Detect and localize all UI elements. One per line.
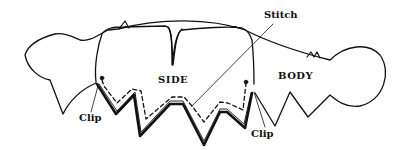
side-bottom-edge	[97, 84, 252, 145]
clip-label-right: Clip	[251, 129, 274, 139]
clip-label-left: Clip	[79, 113, 102, 123]
clip-left-leader-line	[91, 86, 98, 112]
clip-dot-left	[100, 76, 104, 80]
stitch-label: Stitch	[264, 10, 298, 20]
diagram-canvas: SIDE BODY Stitch Clip Clip	[0, 0, 402, 150]
clip-right-leader-line	[254, 92, 265, 127]
body-outline	[25, 21, 386, 126]
clip-dot-right	[244, 80, 248, 84]
body-label: BODY	[278, 71, 313, 81]
center-dart	[168, 27, 182, 65]
pattern-drawing	[0, 0, 402, 150]
stitch-leader-line	[192, 24, 273, 106]
side-label: SIDE	[158, 75, 188, 85]
